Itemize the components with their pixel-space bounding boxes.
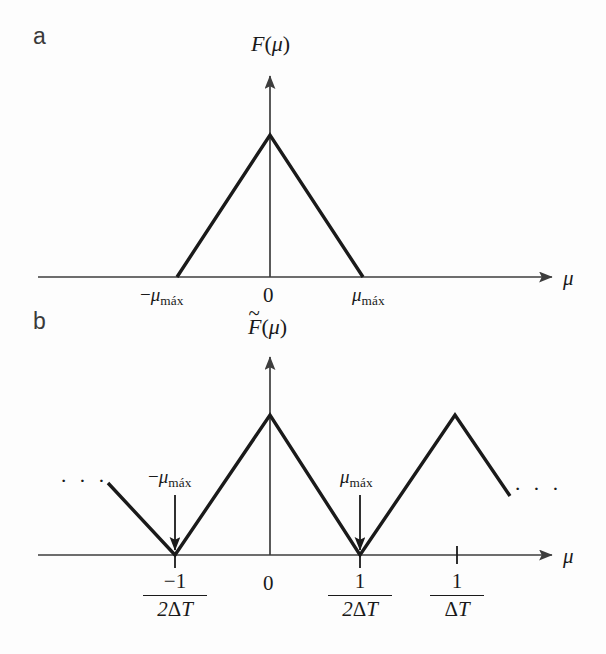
panel-b-pos-mu-subscript: máx xyxy=(350,475,373,490)
panel-b-pos-half-denominator: 2ΔT xyxy=(328,598,392,621)
panel-b-neg-half-denominator: 2ΔT xyxy=(143,598,207,621)
panel-a-function-label: F(μ) xyxy=(251,33,290,55)
panel-b-tick-label-pos-one: 1 ΔT xyxy=(430,571,484,621)
panel-b-graphics xyxy=(38,357,552,568)
fraction-bar-icon xyxy=(430,595,484,597)
panel-a-function-open-paren: ( xyxy=(264,31,271,56)
panel-b-letter: b xyxy=(33,310,46,333)
panel-a-function-mu: μ xyxy=(272,31,283,56)
panel-b-neg-half-den-delta: Δ xyxy=(168,597,182,621)
panel-b-ellipsis-right: · · · xyxy=(514,478,562,500)
panel-b-pos-one-numerator: 1 xyxy=(430,571,484,594)
panel-b-tick-label-neg-half: −1 2ΔT xyxy=(143,571,207,621)
panel-b-function-mu: μ xyxy=(269,314,280,339)
panel-b-pos-half-den-T: T xyxy=(366,597,378,621)
panel-a-neg-sign: − xyxy=(140,284,151,305)
panel-b-pos-half-den-coef: 2 xyxy=(342,597,353,621)
panel-a-pos-mu-subscript: máx xyxy=(362,293,385,308)
panel-b-neg-half-den-T: T xyxy=(181,597,193,621)
panel-b-function-f-tilde: ~F xyxy=(248,316,261,338)
figure-graphics xyxy=(0,0,606,654)
panel-a-tick-label-pos-mumax: μmáx xyxy=(352,285,385,308)
fraction-bar-icon xyxy=(328,595,392,597)
panel-b-pos-half-den-delta: Δ xyxy=(353,597,367,621)
panel-a-tick-label-zero: 0 xyxy=(263,285,274,306)
panel-b-pos-mu: μ xyxy=(340,466,350,487)
panel-a-tick-label-neg-mumax: −μmáx xyxy=(140,285,184,308)
panel-b-neg-mu: μ xyxy=(159,466,169,487)
panel-b-axis-label-mu: μ xyxy=(563,546,574,567)
panel-a-function-close-paren: ) xyxy=(283,31,290,56)
panel-a-function-f: F xyxy=(251,31,264,56)
panel-b-tick-label-pos-half: 1 2ΔT xyxy=(328,571,392,621)
panel-a-neg-mu: μ xyxy=(151,284,161,305)
panel-b-annotation-neg-mumax: −μmáx xyxy=(148,467,192,490)
panel-b-pos-one-denominator: ΔT xyxy=(430,598,484,621)
panel-a-axis-label-mu: μ xyxy=(563,268,574,289)
figure-container: a F(μ) μ −μmáx 0 μmáx b ~F(μ) μ · · · · … xyxy=(0,0,606,654)
panel-b-neg-sign: − xyxy=(148,466,159,487)
panel-b-neg-half-numerator: −1 xyxy=(143,571,207,594)
panel-b-annotation-pos-mumax: μmáx xyxy=(340,467,373,490)
panel-b-pos-half-numerator: 1 xyxy=(328,571,392,594)
panel-a-letter: a xyxy=(33,25,46,48)
panel-b-neg-half-den-coef: 2 xyxy=(157,597,168,621)
panel-b-ellipsis-left: · · · xyxy=(60,470,108,492)
panel-b-neg-mu-subscript: máx xyxy=(168,475,191,490)
tilde-accent-icon: ~ xyxy=(248,303,259,324)
fraction-bar-icon xyxy=(143,595,207,597)
panel-b-tick-label-zero: 0 xyxy=(263,573,274,594)
panel-a-neg-mu-subscript: máx xyxy=(160,293,183,308)
panel-b-pos-one-den-T: T xyxy=(458,597,470,621)
panel-a-pos-mu: μ xyxy=(352,284,362,305)
panel-b-pos-one-den-delta: Δ xyxy=(444,597,458,621)
panel-b-function-open-paren: ( xyxy=(261,314,268,339)
panel-b-function-close-paren: ) xyxy=(280,314,287,339)
panel-b-function-label: ~F(μ) xyxy=(248,316,287,338)
panel-a-graphics xyxy=(38,76,552,277)
